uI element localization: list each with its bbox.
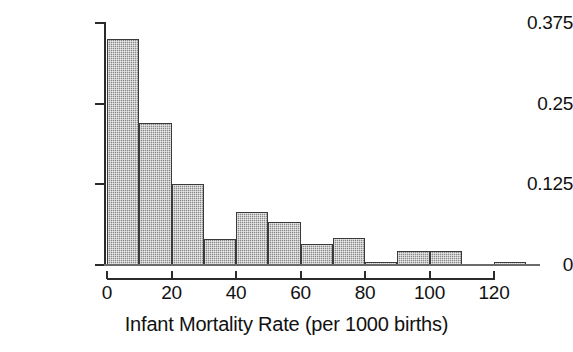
- histogram-bar: [333, 238, 365, 265]
- y-tick-mark: [95, 103, 105, 105]
- x-tick-label: 40: [226, 283, 247, 302]
- x-tick-label: 100: [414, 283, 445, 302]
- plot-area: 0.3750.250.1250 020406080100120: [0, 0, 573, 352]
- histogram-bar: [204, 239, 236, 265]
- y-axis-line: [104, 22, 106, 266]
- histogram-bar: [236, 212, 268, 265]
- histogram-bar: [268, 222, 300, 265]
- x-tick-mark: [300, 271, 302, 279]
- zero-baseline: [104, 264, 540, 266]
- histogram-bar: [430, 251, 462, 265]
- x-tick-label: 120: [479, 283, 510, 302]
- histogram-bar: [107, 39, 139, 265]
- x-tick-mark: [364, 271, 366, 279]
- histogram-bar: [172, 184, 204, 265]
- x-tick-mark: [235, 271, 237, 279]
- x-tick-label: 0: [102, 283, 112, 302]
- x-tick-mark: [106, 271, 108, 279]
- x-tick-mark: [171, 271, 173, 279]
- y-tick-label: 0.125: [481, 174, 573, 193]
- x-tick-label: 80: [355, 283, 376, 302]
- y-tick-label: 0.375: [481, 13, 573, 32]
- x-tick-label: 20: [161, 283, 182, 302]
- x-tick-mark: [429, 271, 431, 279]
- histogram-figure: 0.3750.250.1250 020406080100120 Infant M…: [0, 0, 573, 352]
- y-tick-label: 0.25: [481, 94, 573, 113]
- x-tick-label: 60: [290, 283, 311, 302]
- histogram-bar: [301, 244, 333, 265]
- x-tick-mark: [493, 271, 495, 279]
- y-tick-mark: [95, 183, 105, 185]
- x-axis-title: Infant Mortality Rate (per 1000 births): [0, 314, 573, 334]
- histogram-bar: [139, 123, 171, 265]
- y-tick-mark: [95, 22, 105, 24]
- histogram-bar: [397, 251, 429, 265]
